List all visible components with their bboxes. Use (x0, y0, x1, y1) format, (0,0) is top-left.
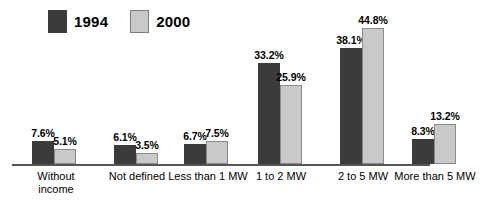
bar-2000 (136, 153, 158, 164)
bar-column: 33.2% (258, 28, 280, 164)
bar-value-label: 7.6% (31, 128, 55, 139)
category-label: More than 5 MW (385, 170, 481, 183)
bar-column: 13.2% (434, 28, 456, 164)
bar-column: 7.5% (206, 28, 228, 164)
x-axis-baseline (12, 164, 430, 166)
bar-1994 (114, 145, 136, 164)
bar-value-label: 5.1% (53, 136, 77, 147)
legend-label-1994: 1994 (74, 14, 108, 29)
bar-column: 6.1% (114, 28, 136, 164)
bar-group-bars: 38.1%44.8% (340, 28, 384, 164)
plot-area: 7.6%5.1%6.1%3.5%6.7%7.5%33.2%25.9%38.1%4… (12, 28, 430, 164)
bar-2000 (54, 149, 76, 164)
bar-column: 44.8% (362, 28, 384, 164)
bar-2000 (362, 28, 384, 164)
bar-1994 (184, 144, 206, 164)
bar-1994 (340, 48, 362, 164)
bar-column: 6.7% (184, 28, 206, 164)
bar-group-bars: 6.1%3.5% (114, 28, 158, 164)
bar-group-bars: 7.6%5.1% (32, 28, 76, 164)
bar-group-bars: 6.7%7.5% (184, 28, 228, 164)
bar-value-label: 7.5% (205, 128, 229, 139)
bar-value-label: 6.7% (183, 131, 207, 142)
bar-column: 8.3% (412, 28, 434, 164)
bar-value-label: 13.2% (430, 111, 459, 122)
bar-column: 3.5% (136, 28, 158, 164)
category-axis-labels: Without incomeNot definedLess than 1 MW1… (12, 170, 473, 210)
bar-1994 (32, 141, 54, 164)
legend-label-2000: 2000 (156, 14, 190, 29)
bar-value-label: 25.9% (276, 72, 305, 83)
bar-column: 5.1% (54, 28, 76, 164)
bar-1994 (412, 139, 434, 164)
bar-group-bars: 8.3%13.2% (412, 28, 456, 164)
bar-column: 38.1% (340, 28, 362, 164)
bar-column: 25.9% (280, 28, 302, 164)
bar-value-label: 44.8% (358, 15, 387, 26)
bar-value-label: 8.3% (411, 126, 435, 137)
bar-column: 7.6% (32, 28, 54, 164)
bar-value-label: 6.1% (113, 132, 137, 143)
bar-2000 (280, 85, 302, 164)
bar-group-bars: 33.2%25.9% (258, 28, 302, 164)
bar-value-label: 3.5% (135, 140, 159, 151)
bar-2000 (206, 141, 228, 164)
bar-2000 (434, 124, 456, 164)
